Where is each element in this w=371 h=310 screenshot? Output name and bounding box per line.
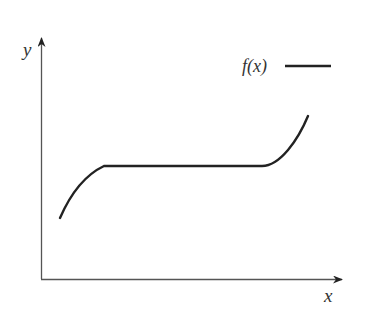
y-axis-label: y bbox=[21, 39, 32, 60]
function-curve bbox=[60, 116, 308, 218]
x-axis-label: x bbox=[323, 285, 333, 306]
legend: f(x) bbox=[242, 56, 331, 77]
legend-label: f(x) bbox=[242, 56, 267, 77]
function-plot: y x f(x) bbox=[0, 0, 371, 310]
